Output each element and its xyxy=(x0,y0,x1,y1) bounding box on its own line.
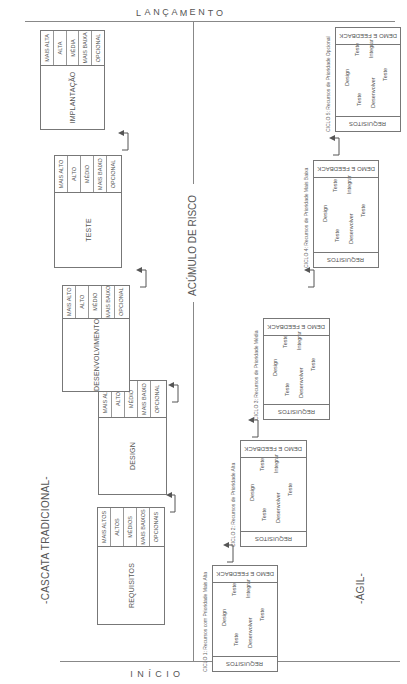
arrow-icon xyxy=(60,128,150,152)
priority-cell: MAIS ALTO xyxy=(63,286,76,318)
waterfall-phase-teste: TESTE MAIS ALTO ALTO MÉDIO MAIS BAIXO OP… xyxy=(54,155,122,268)
agile-title: -ÁGIL- xyxy=(355,573,366,604)
cycle-diagram: Design Teste Integrar Teste Desenvolver … xyxy=(213,583,277,656)
priority-cell: MAIS ALTO xyxy=(55,156,68,192)
cycle-step: Design xyxy=(221,609,227,626)
cycle-footer: REQUISITOS xyxy=(336,116,400,131)
priority-cell: OPCIONAL xyxy=(107,156,119,192)
start-letter: I xyxy=(130,670,133,679)
cycle-step: Teste xyxy=(261,508,267,521)
start-letter: Í xyxy=(148,670,151,679)
cycle-step: Teste xyxy=(382,68,388,81)
cycle-step: Design xyxy=(249,484,255,501)
agile-cycle-2: REQUISITOS Design Teste Integrar Teste D… xyxy=(240,440,307,547)
cycle-2-label: CICLO 2: Recursos de Prioridade Alta xyxy=(230,463,236,547)
cycle-footer: REQUISITOS xyxy=(264,404,329,419)
cycle-step: Desenvolver xyxy=(348,213,354,244)
cycle-diagram: Design Teste Integrar Teste Desenvolver … xyxy=(241,458,306,531)
cycle-step: Teste xyxy=(356,93,362,106)
cycle-4-label: CICLO 4: Recursos de Prioridade Mais Bai… xyxy=(303,168,309,268)
cycle-step: Desenvolver xyxy=(275,492,281,523)
phase-name: DESIGN xyxy=(99,418,166,494)
priority-cell: MÉDIA xyxy=(67,31,80,65)
cycle-1-label: CICLO 1: Recursos com Prioridade Mais Al… xyxy=(202,572,208,672)
phase-name: IMPLANTAÇÃO xyxy=(41,66,104,129)
cycle-step: Teste xyxy=(233,633,239,646)
priority-cell: MAIS BAIXO xyxy=(94,156,107,192)
cycle-step: Teste xyxy=(259,608,265,621)
cycle-header: DEMO E FEEDBACK xyxy=(241,441,306,458)
cycle-step: Teste xyxy=(310,358,316,371)
waterfall-phase-implantacao: IMPLANTAÇÃO MAIS ALTA ALTA MÉDIA MAIS BA… xyxy=(40,30,105,130)
cycle-header: DEMO E FEEDBACK xyxy=(336,28,400,45)
cycle-step: Desenvolver xyxy=(247,617,253,648)
arrow-icon xyxy=(270,265,320,289)
diagram-stage: I N Í C I O L A N Ç A M E N T O ACÚMULO … xyxy=(0,0,407,684)
priority-cell: ALTA xyxy=(54,31,67,65)
end-label: L A N Ç A M E N T O xyxy=(134,10,224,18)
cycle-step: Teste xyxy=(284,383,290,396)
arrow-icon xyxy=(60,265,150,289)
risk-divider-left xyxy=(193,302,194,662)
priority-cell: ALTO xyxy=(76,286,89,318)
risk-divider-label: ACÚMULO DE RISCO xyxy=(187,195,198,296)
waterfall-title: -CASCATA TRADICIONAL- xyxy=(40,476,51,604)
cycle-step: Design xyxy=(344,69,350,86)
phase-name: TESTE xyxy=(55,193,121,267)
end-letter: Ç xyxy=(162,9,169,18)
cycle-diagram: Design Teste Integrar Teste Desenvolver … xyxy=(314,178,378,252)
cycle-5-label: CICLO 5: Recursos de Prioridade Opcional xyxy=(325,36,331,132)
phase-name: REQUISITOS xyxy=(98,547,164,624)
cycle-step: Teste xyxy=(231,583,237,596)
cycle-step: Design xyxy=(322,205,328,222)
priority-cell: MAIS ALTA xyxy=(41,31,54,65)
cycle-3-label: CICLO 3: Recursos de Prioridade Média xyxy=(253,331,259,421)
cycle-footer: REQUISITOS xyxy=(213,656,277,671)
arrow-icon xyxy=(230,415,270,439)
priority-cell: ALTO xyxy=(68,156,81,192)
arrow-icon xyxy=(205,540,245,564)
waterfall-phase-requisitos: REQUISITOS MAIS ALTOS ALTOS MÉDIOS MAIS … xyxy=(97,507,165,625)
end-letter: A xyxy=(144,9,150,18)
end-letter: M xyxy=(180,9,188,18)
cycle-diagram: Design Teste Integrar Teste Desenvolver … xyxy=(264,336,329,404)
arrow-icon xyxy=(295,133,345,157)
waterfall-phase-desenvolvimento: DESENVOLVIMENTO MAIS ALTO ALTO MÉDIO MAI… xyxy=(62,285,130,392)
cycle-header: DEMO E FEEDBACK xyxy=(264,319,329,336)
priority-cell: MAIS BAIXO xyxy=(102,286,115,318)
priority-cell: MAIS BAIXA xyxy=(79,31,92,65)
start-letter: C xyxy=(155,670,162,679)
arrow-icon xyxy=(100,490,180,514)
cycle-header: DEMO E FEEDBACK xyxy=(213,566,277,583)
risk-divider-right xyxy=(193,22,194,184)
cycle-step: Teste xyxy=(287,483,293,496)
end-letter: E xyxy=(189,9,195,18)
start-letter: O xyxy=(173,670,180,679)
agile-cycle-3: REQUISITOS Design Teste Integrar Teste D… xyxy=(263,318,330,420)
cycle-step: Teste xyxy=(282,335,288,348)
priority-cell: OPCIONAL xyxy=(92,31,104,65)
cycle-diagram: Design Teste Integrar Teste Desenvolver … xyxy=(336,45,400,116)
end-line xyxy=(25,21,395,22)
cycle-header: DEMO E FEEDBACK xyxy=(314,161,378,178)
cycle-step: Teste xyxy=(259,458,265,471)
cycle-step: Teste xyxy=(332,179,338,192)
priority-cell: OPCIONAL xyxy=(115,286,127,318)
cycle-step: Teste xyxy=(360,204,366,217)
agile-cycle-1: REQUISITOS Design Teste Integrar Teste D… xyxy=(212,565,278,672)
agile-cycle-4: REQUISITOS Design Teste Integrar Teste D… xyxy=(313,160,379,268)
end-letter: N xyxy=(153,9,160,18)
priority-cell: MÉDIO xyxy=(89,286,102,318)
end-letter: O xyxy=(216,9,223,18)
cycle-step: Desenvolver xyxy=(298,367,304,398)
end-letter: A xyxy=(171,9,177,18)
start-label: I N Í C I O xyxy=(127,671,181,678)
cycle-step: Teste xyxy=(334,229,340,242)
cycle-step: Desenvolver xyxy=(370,77,376,108)
agile-cycle-5: REQUISITOS Design Teste Integrar Teste D… xyxy=(335,27,401,132)
priority-cell: MÉDIO xyxy=(81,156,94,192)
cycle-step: Design xyxy=(272,359,278,376)
end-letter: L xyxy=(136,9,141,18)
cycle-footer: REQUISITOS xyxy=(314,252,378,267)
start-letter: I xyxy=(166,670,169,679)
